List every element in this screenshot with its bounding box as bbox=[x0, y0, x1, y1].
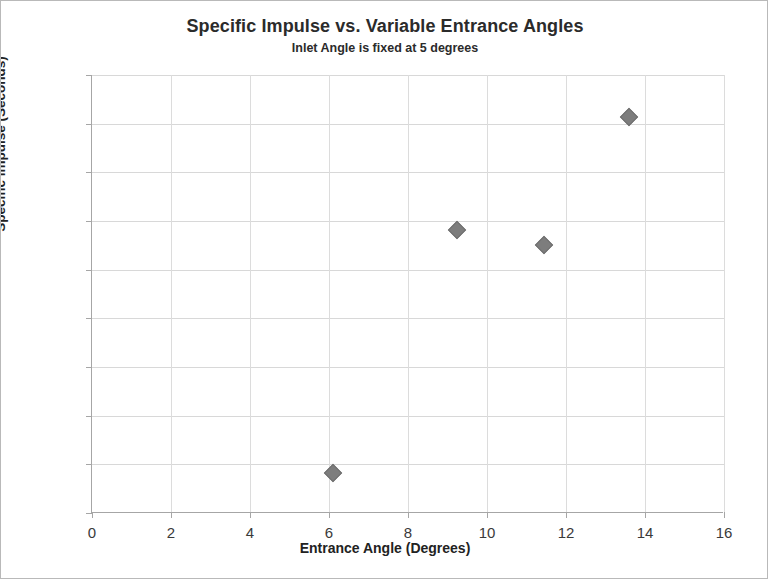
x-tick-label: 10 bbox=[467, 525, 507, 540]
chart-figure: Specific Impulse vs. Variable Entrance A… bbox=[0, 0, 768, 579]
x-gridline bbox=[250, 75, 251, 513]
y-tick bbox=[86, 318, 92, 319]
x-gridline bbox=[566, 75, 567, 513]
x-tick bbox=[645, 512, 646, 518]
x-tick bbox=[487, 512, 488, 518]
x-tick-label: 14 bbox=[625, 525, 665, 540]
x-gridline bbox=[645, 75, 646, 513]
x-gridline bbox=[329, 75, 330, 513]
x-tick-label: 0 bbox=[72, 525, 112, 540]
y-tick bbox=[86, 464, 92, 465]
data-point bbox=[448, 221, 466, 239]
y-tick bbox=[86, 124, 92, 125]
x-tick bbox=[408, 512, 409, 518]
x-tick-label: 12 bbox=[546, 525, 586, 540]
x-tick-label: 6 bbox=[309, 525, 349, 540]
y-tick bbox=[86, 75, 92, 76]
x-tick-label: 2 bbox=[151, 525, 191, 540]
data-point bbox=[535, 236, 553, 254]
chart-title: Specific Impulse vs. Variable Entrance A… bbox=[1, 15, 768, 37]
y-tick bbox=[86, 221, 92, 222]
x-tick bbox=[724, 512, 725, 518]
x-tick-label: 4 bbox=[230, 525, 270, 540]
y-tick bbox=[86, 367, 92, 368]
y-tick bbox=[86, 416, 92, 417]
x-gridline bbox=[408, 75, 409, 513]
x-tick bbox=[171, 512, 172, 518]
x-gridline bbox=[487, 75, 488, 513]
y-tick bbox=[86, 270, 92, 271]
x-gridline bbox=[724, 75, 725, 513]
data-point bbox=[324, 464, 342, 482]
y-axis-title: Specific Impulse (Seconds) bbox=[0, 0, 8, 294]
x-axis-title: Entrance Angle (Degrees) bbox=[1, 540, 768, 556]
x-tick bbox=[92, 512, 93, 518]
plot-area: 9359409459509559609659709759800246810121… bbox=[91, 75, 723, 513]
x-tick-label: 8 bbox=[388, 525, 428, 540]
title-block: Specific Impulse vs. Variable Entrance A… bbox=[1, 15, 768, 57]
chart-subtitle: Inlet Angle is fixed at 5 degrees bbox=[1, 39, 768, 57]
x-tick-label: 16 bbox=[704, 525, 744, 540]
x-tick bbox=[566, 512, 567, 518]
x-tick bbox=[329, 512, 330, 518]
y-tick bbox=[86, 172, 92, 173]
x-gridline bbox=[171, 75, 172, 513]
x-tick bbox=[250, 512, 251, 518]
